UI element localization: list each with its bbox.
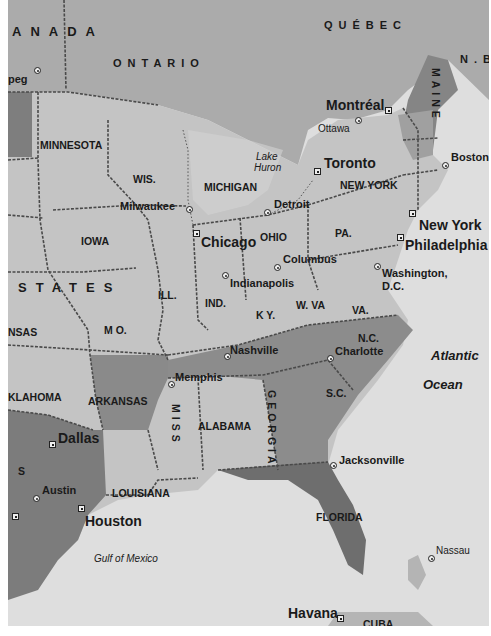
city-label[interactable]: Indianapolis [230,278,294,289]
water-label: Atlantic [431,349,479,362]
state-label: W. VA [296,300,325,311]
city-label[interactable]: Montréal [326,98,384,112]
city-label[interactable]: Havana [288,606,338,620]
water-label: Huron [254,163,281,173]
city-label[interactable]: Washington, [382,268,448,279]
state-label: FLORIDA [316,512,363,523]
city-label[interactable]: Memphis [175,372,223,383]
province-label: N.B. [460,54,489,65]
water-label: Gulf of Mexico [94,554,158,564]
country-label: ANADA [12,25,104,38]
country-label: STATES [18,281,121,294]
city-label[interactable]: Houston [85,514,142,528]
state-label: K Y. [256,310,275,321]
city-label[interactable]: Milwaukee [120,201,175,212]
capital-marker-icon[interactable] [49,441,56,448]
city-marker-icon[interactable] [374,263,381,270]
city-marker-icon[interactable] [428,555,435,562]
state-label: PA. [335,228,352,239]
city-label[interactable]: Dallas [58,431,99,445]
city-label[interactable]: Jacksonville [339,455,404,466]
city-label[interactable]: Nassau [436,546,470,556]
city-marker-icon[interactable] [274,264,281,271]
state-label: ILL. [158,290,177,301]
state-label: IOWA [81,236,109,247]
state-label: M O. [104,325,127,336]
state-label: IND. [205,298,226,309]
water-label: Lake [256,152,278,162]
city-label[interactable]: Nashville [230,345,278,356]
province-label: QUÉBEC [324,20,407,31]
state-label: WIS. [133,174,156,185]
capital-marker-icon[interactable] [409,210,416,217]
state-label: LOUISIANA [112,488,170,499]
map-canvas[interactable]: ANADASTATESONTARIOQUÉBECN.B.MINNESOTAWIS… [8,0,489,626]
city-label[interactable]: Chicago [201,235,256,249]
state-label: VA. [352,305,369,316]
province-label: ONTARIO [113,58,205,69]
city-marker-icon[interactable] [264,209,271,216]
city-label[interactable]: Ottawa [318,124,350,134]
capital-marker-icon[interactable] [337,615,344,622]
city-marker-icon[interactable] [330,462,337,469]
city-marker-icon[interactable] [33,495,40,502]
map-shapes [8,0,489,626]
city-label[interactable]: New York [419,218,482,232]
city-marker-icon[interactable] [327,355,334,362]
country-label: CUBA [363,619,393,626]
city-label[interactable]: D.C. [382,281,404,292]
city-label[interactable]: peg [8,74,28,85]
state-label: GEORGIA [266,390,277,468]
city-label[interactable]: Charlotte [335,346,383,357]
state-label: N.C. [358,333,379,344]
city-label[interactable]: Boston [451,152,489,163]
capital-marker-icon[interactable] [385,107,392,114]
city-label[interactable]: Austin [42,485,76,496]
state-label: MISS [170,404,181,446]
capital-marker-icon[interactable] [12,513,19,520]
capital-marker-icon[interactable] [397,234,404,241]
state-label: MICHIGAN [204,182,257,193]
state-label: KLAHOMA [8,392,62,403]
city-label[interactable]: Detroit [274,199,309,210]
capital-marker-icon[interactable] [78,505,85,512]
capital-marker-icon[interactable] [193,230,200,237]
city-marker-icon[interactable] [34,67,41,74]
state-label: NEW YORK [340,180,398,191]
city-marker-icon[interactable] [442,162,449,169]
state-label: ALABAMA [198,421,251,432]
city-label[interactable]: Philadelphia [405,238,487,252]
city-marker-icon[interactable] [355,117,362,124]
state-label: MAINE [430,68,441,122]
city-label[interactable]: Toronto [324,156,376,170]
city-marker-icon[interactable] [222,272,229,279]
state-label: ARKANSAS [88,396,148,407]
water-label: Ocean [423,378,463,391]
state-label: MINNESOTA [40,140,102,151]
city-marker-icon[interactable] [186,206,193,213]
state-label: NSAS [8,327,37,338]
city-marker-icon[interactable] [168,381,175,388]
capital-marker-icon[interactable] [314,168,321,175]
state-label: S.C. [326,388,346,399]
state-label: OHIO [260,232,287,243]
city-label[interactable]: Columbus [283,254,337,265]
state-label: S [18,466,25,477]
